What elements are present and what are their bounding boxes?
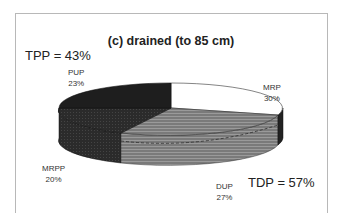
label-dup-pct: 27% <box>216 192 233 203</box>
label-mrpp: MRPP 20% <box>42 163 65 185</box>
label-mrpp-name: MRPP <box>42 163 65 174</box>
label-pup-name: PUP <box>68 67 84 78</box>
label-dup: DUP 27% <box>216 181 233 203</box>
label-mrpp-pct: 20% <box>42 174 65 185</box>
label-pup: PUP 23% <box>68 67 84 89</box>
label-mrp-pct: 30% <box>263 93 281 104</box>
label-dup-name: DUP <box>216 181 233 192</box>
label-mrp: MRP 30% <box>263 82 281 104</box>
label-mrp-name: MRP <box>263 82 281 93</box>
label-pup-pct: 23% <box>68 78 84 89</box>
pie-chart <box>0 0 342 219</box>
